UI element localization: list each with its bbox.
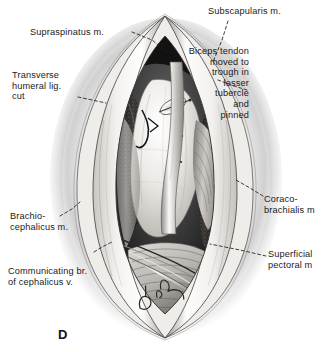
label-brachiocephalicus: Brachio- cephalicus m. [10, 211, 68, 232]
label-transverse-humeral-lig: Transverse humeral lig. cut [12, 70, 61, 102]
label-coracobrachialis: Coraco- brachialis m [264, 194, 315, 215]
label-communicating-branch: Communicating br. of cephalicus v. [8, 266, 87, 287]
label-superficial-pectoral: Superficial pectoral m [268, 249, 313, 270]
label-supraspinatus: Supraspinatus m. [30, 27, 104, 38]
label-subscapularis: Subscapularis m. [208, 6, 281, 17]
anatomical-illustration [0, 0, 330, 352]
label-biceps-tendon: Biceps tendon moved to trough in lesser … [189, 46, 249, 120]
figure-letter: D [58, 327, 68, 342]
